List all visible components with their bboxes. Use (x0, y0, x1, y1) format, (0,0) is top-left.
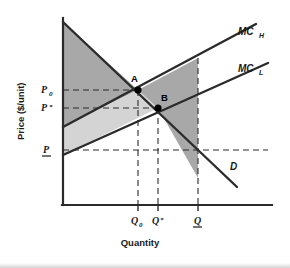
mc-low-label-subscript: L (259, 69, 263, 76)
x-axis-title: Quantity (121, 237, 160, 248)
y-axis-tick-labels: P 0 P * P (41, 84, 53, 156)
y-tick-label-plow: P (43, 144, 50, 155)
x-tick-label-qstar-superscript: * (160, 216, 164, 224)
point-a-label: A (131, 73, 138, 84)
x-tick-label-qstar: Q (152, 215, 159, 226)
y-tick-label-p0-subscript: 0 (49, 90, 53, 98)
shaded-regions (63, 22, 198, 178)
x-tick-label-q0-subscript: 0 (139, 221, 143, 229)
demand-label: D (230, 161, 237, 172)
point-b-marker (154, 104, 161, 111)
y-tick-label-pstar-superscript: * (49, 103, 53, 111)
x-tick-label-q0: Q (131, 215, 138, 226)
y-tick-label-p0: P (41, 84, 48, 95)
page-bottom-edge (0, 263, 290, 268)
y-tick-label-pstar: P (41, 102, 48, 113)
point-b-label: B (161, 92, 168, 103)
x-axis-tick-labels: Q 0 Q * Q (131, 215, 202, 229)
mc-low-label: MC (238, 63, 254, 74)
diagram-canvas: A B MC H MC L D P 0 P * P Q 0 Q * Q (0, 0, 290, 268)
economics-diagram-figure: A B MC H MC L D P 0 P * P Q 0 Q * Q (0, 0, 290, 268)
mc-high-label-subscript: H (259, 32, 265, 39)
x-tick-label-qlow: Q (194, 215, 201, 226)
y-axis-title: Price ($/unit) (15, 82, 26, 140)
mc-high-label: MC (238, 26, 254, 37)
point-a-marker (134, 86, 141, 93)
